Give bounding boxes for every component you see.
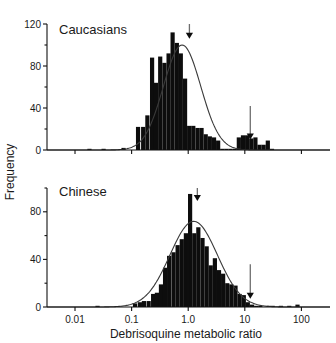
histogram-bar [175,43,179,150]
figure-container: Frequency 04080120Caucasians 040800.010.… [0,0,336,343]
histogram-bar [154,83,158,150]
histogram-bar [179,53,183,150]
histogram-bar [213,258,217,307]
histogram-bar [163,268,167,307]
y-tick-label: 40 [30,103,42,114]
histogram-bar [142,301,146,307]
histogram-bar [253,137,257,150]
histogram-bar [262,145,266,150]
histogram-figure: Frequency 04080120Caucasians 040800.010.… [0,0,336,343]
histogram-bar [199,128,203,150]
histogram-bar [184,233,188,307]
histogram-bar [138,302,142,307]
panel-title: Chinese [59,184,107,199]
histogram-bar [225,283,229,307]
histogram-bar [188,194,192,307]
histogram-bar [205,246,209,307]
y-tick-label: 80 [30,61,42,72]
histogram-bar [176,245,180,307]
x-tick-label: 0.01 [65,314,85,325]
histogram-bar [191,126,195,150]
histogram-bar [171,32,175,150]
panel-caucasians: 04080120Caucasians [24,19,330,156]
histogram-bar [155,293,159,307]
histogram-bar [192,233,196,307]
extensive-metabolizer-arrow [194,195,201,201]
x-axis-title: Debrisoquine metabolic ratio [110,327,262,341]
y-axis-title-group: Frequency [3,144,17,201]
histogram-bar [209,265,213,307]
y-tick-label: 0 [35,145,41,156]
histogram-bar [196,227,200,307]
histogram-bar [167,256,171,307]
histogram-bar [221,274,225,307]
histogram-bar [204,134,208,150]
histogram-bar [249,138,253,150]
histogram-bar [216,141,220,150]
histogram-bar [237,137,241,150]
histogram-bar [147,301,151,307]
histogram-bar [245,135,249,150]
histogram-bar [145,115,149,150]
histogram-bar [195,128,199,150]
x-tick-label: 100 [293,314,310,325]
histogram-bar [159,284,163,307]
y-tick-label: 40 [30,254,42,265]
panel-title: Caucasians [59,22,127,37]
x-tick-label: 10 [239,314,251,325]
histogram-bar [229,284,233,307]
y-tick-label: 120 [24,19,41,30]
y-tick-label: 0 [35,302,41,313]
histogram-bar [208,136,212,150]
y-tick-label: 80 [30,206,42,217]
extensive-metabolizer-arrow [186,33,193,39]
histogram-bar [257,145,261,150]
histogram-bar [171,252,175,307]
poor-metabolizer-antimode-arrow [247,293,254,299]
histogram-bar [241,135,245,150]
histogram-bar [162,63,166,150]
histogram-bar [246,302,250,307]
y-axis-title: Frequency [3,144,17,201]
histogram-bar [212,137,216,150]
x-tick-label: 0.1 [125,314,139,325]
histogram-bar [180,239,184,307]
histogram-bar [136,127,140,150]
histogram-bar [217,270,221,307]
histogram-bar [151,294,155,307]
histogram-bar [187,126,191,150]
histogram-bar [150,58,154,150]
panel-chinese: 040800.010.11.010100Chinese [30,184,330,325]
x-tick-label: 1.0 [181,314,195,325]
histogram-bar [266,141,270,150]
histogram-bar [200,238,204,307]
histogram-bar [183,79,187,150]
